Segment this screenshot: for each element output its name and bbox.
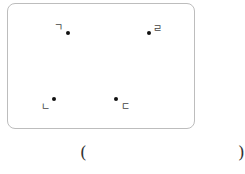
answer-blank[interactable] [90, 142, 230, 162]
point-label-rieul: ㄹ [153, 24, 162, 34]
point-nieun [52, 97, 56, 101]
answer-open-paren: ( [80, 142, 87, 162]
diagram-frame [7, 3, 195, 129]
answer-close-paren: ) [238, 142, 245, 162]
point-digeut [114, 97, 118, 101]
point-label-nieun: ㄴ [41, 102, 50, 112]
point-label-giyeok: ㄱ [54, 23, 63, 33]
point-label-digeut: ㄷ [121, 102, 130, 112]
point-rieul [147, 31, 151, 35]
point-giyeok [66, 31, 70, 35]
